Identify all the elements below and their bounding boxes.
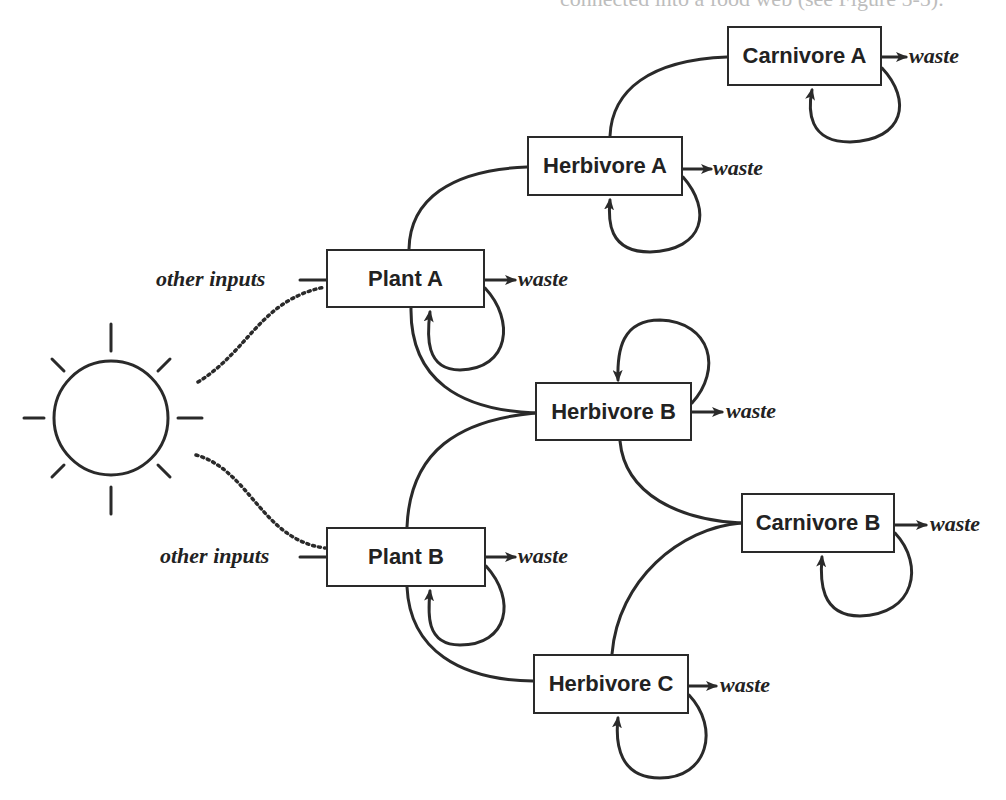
sun-to-plant-a-flow (198, 287, 325, 382)
sun-icon (24, 324, 202, 514)
node-plant-b: Plant B (326, 527, 486, 587)
other-inputs-label-plant-b: other inputs (160, 543, 269, 569)
plant-a-to-herbivore-a (409, 167, 527, 249)
node-herbivore-c: Herbivore C (533, 654, 689, 714)
plant-b-to-herbivore-b (407, 413, 535, 527)
node-carnivore-a: Carnivore A (727, 26, 882, 86)
sun-to-plant-b-flow (196, 455, 325, 548)
waste-label-herbivore-c: waste (720, 672, 770, 698)
diagram-connections (0, 0, 1006, 800)
waste-label-herbivore-a: waste (713, 155, 763, 181)
node-herbivore-b: Herbivore B (535, 382, 692, 441)
waste-label-carnivore-b: waste (930, 511, 980, 537)
node-plant-a: Plant A (326, 249, 485, 308)
node-herbivore-a: Herbivore A (527, 136, 683, 196)
node-carnivore-b: Carnivore B (741, 493, 895, 553)
waste-label-plant-a: waste (518, 266, 568, 292)
waste-label-herbivore-b: waste (726, 398, 776, 424)
plant-b-to-herbivore-c (407, 587, 533, 681)
food-web-diagram: connected into a food web (see Figure 5-… (0, 0, 1006, 800)
other-inputs-label-plant-a: other inputs (156, 266, 265, 292)
herbivore-c-to-carnivore-b (612, 523, 741, 654)
herbivore-a-to-carnivore-a (610, 57, 727, 136)
waste-label-carnivore-a: waste (909, 43, 959, 69)
waste-label-plant-b: waste (518, 543, 568, 569)
herbivore-b-to-carnivore-b (620, 441, 741, 523)
